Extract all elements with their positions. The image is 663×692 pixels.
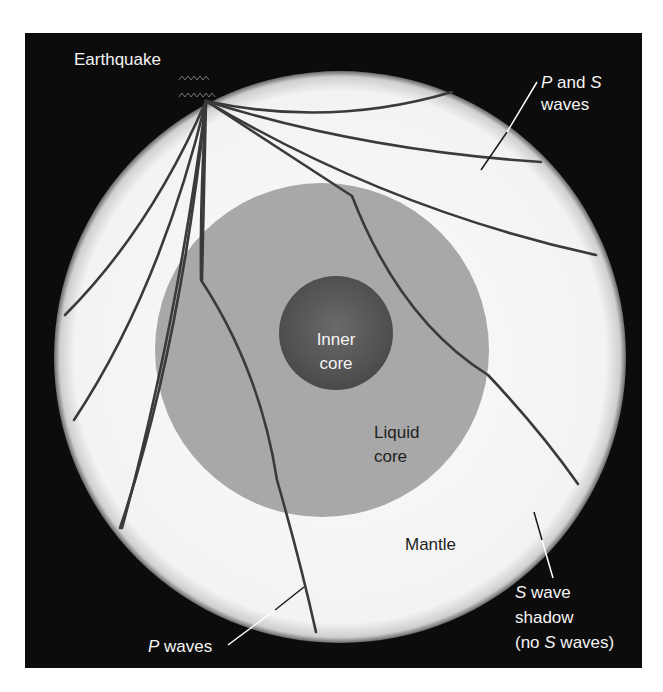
liquid-core-line2: core bbox=[374, 447, 407, 466]
mantle-label: Mantle bbox=[405, 535, 456, 555]
earthquake-label: Earthquake bbox=[74, 50, 161, 70]
s-letter: S bbox=[590, 73, 601, 92]
s-wave-shadow-label: S wave shadow (no S waves) bbox=[515, 580, 614, 655]
s-letter-2: S bbox=[544, 633, 555, 652]
p-and-s-waves-label: P and S waves bbox=[541, 72, 602, 116]
waves-text: waves bbox=[159, 637, 212, 656]
no-text: (no bbox=[515, 633, 544, 652]
liquid-core-line1: Liquid bbox=[374, 423, 419, 442]
inner-core-line1: Inner bbox=[317, 330, 356, 349]
p-letter: P bbox=[541, 73, 552, 92]
inner-core-label: Inner core bbox=[304, 328, 368, 376]
p-letter: P bbox=[148, 637, 159, 656]
liquid-core-label: Liquid core bbox=[374, 421, 419, 469]
inner-core-line2: core bbox=[319, 354, 352, 373]
p-waves-label: P waves bbox=[148, 637, 212, 657]
waves-text: waves bbox=[541, 95, 589, 114]
s-letter: S bbox=[515, 583, 526, 602]
shadow-text: shadow bbox=[515, 608, 574, 627]
and-text: and bbox=[552, 73, 590, 92]
waves-close-text: waves) bbox=[556, 633, 615, 652]
wave-text: wave bbox=[526, 583, 570, 602]
